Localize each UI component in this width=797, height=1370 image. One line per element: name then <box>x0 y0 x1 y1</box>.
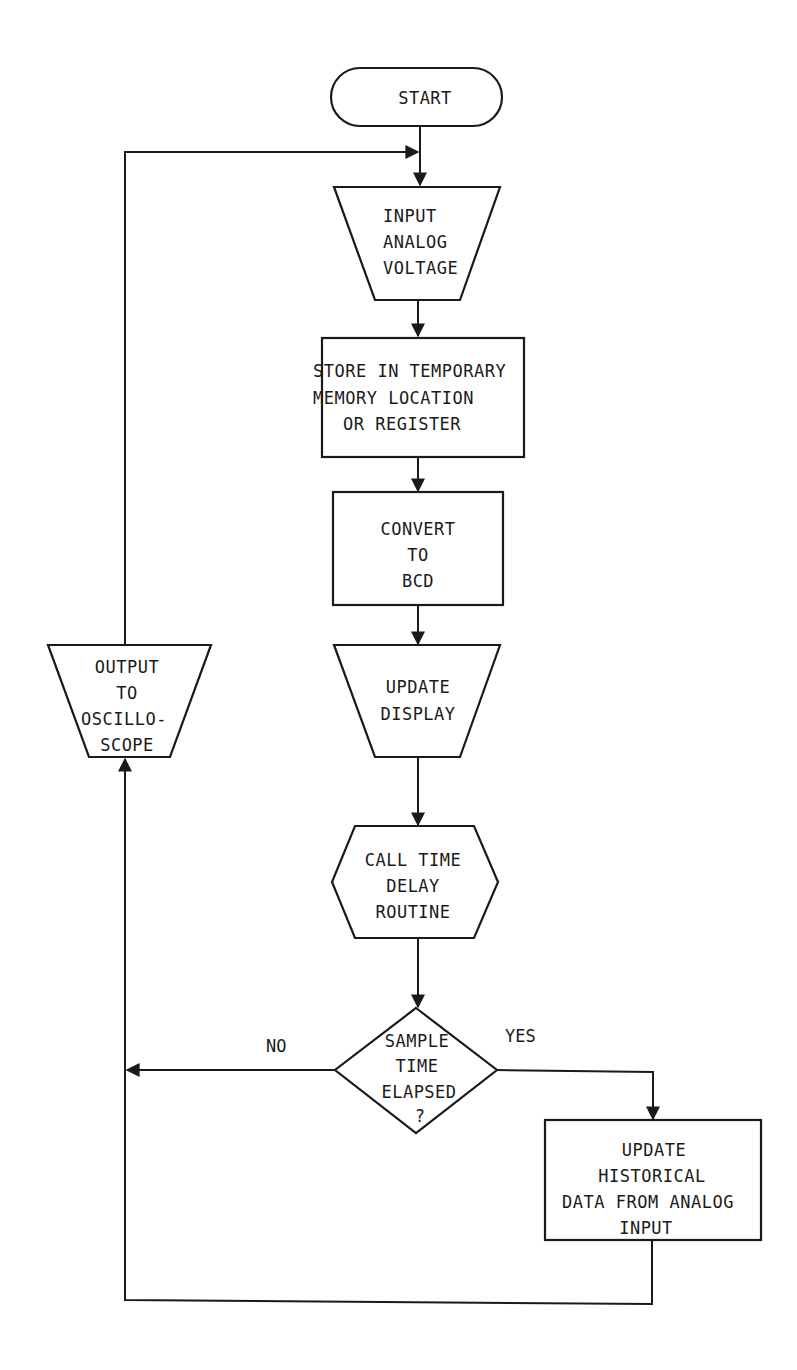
node-store-line-1: STORE IN TEMPORARY <box>313 361 506 381</box>
node-delay: CALL TIME DELAY ROUTINE <box>332 826 498 938</box>
node-delay-line-3: ROUTINE <box>375 902 450 922</box>
node-delay-line-2: DELAY <box>386 876 440 896</box>
node-delay-line-1: CALL TIME <box>365 850 462 870</box>
node-display-line-1: UPDATE <box>386 677 450 697</box>
node-output-line-3: OSCILLO- <box>81 709 167 729</box>
node-historical-line-1: UPDATE <box>622 1140 686 1160</box>
branch-label-no: NO <box>266 1036 286 1056</box>
node-convert-line-3: BCD <box>402 571 434 591</box>
node-historical-line-2: HISTORICAL <box>598 1166 705 1186</box>
edge-decision-yes <box>497 1070 653 1119</box>
node-output-line-1: OUTPUT <box>95 657 159 677</box>
node-convert: CONVERT TO BCD <box>333 492 503 605</box>
node-decision-line-1: SAMPLE <box>385 1031 449 1051</box>
branch-label-yes: YES <box>505 1026 536 1046</box>
node-display: UPDATE DISPLAY <box>334 645 500 757</box>
node-store-line-2: MEMORY LOCATION <box>313 388 474 408</box>
node-output-line-2: TO <box>116 683 137 703</box>
node-input-line-1: INPUT <box>383 206 437 226</box>
node-store-line-3: OR REGISTER <box>343 414 461 434</box>
node-decision-line-4: ? <box>415 1106 426 1126</box>
node-historical-line-4: INPUT <box>619 1218 673 1238</box>
node-output: OUTPUT TO OSCILLO- SCOPE <box>48 645 211 757</box>
node-convert-line-1: CONVERT <box>380 519 455 539</box>
node-convert-line-2: TO <box>407 545 428 565</box>
node-start-label: START <box>398 88 452 108</box>
node-historical: UPDATE HISTORICAL DATA FROM ANALOG INPUT <box>545 1120 761 1240</box>
node-display-line-2: DISPLAY <box>380 704 455 724</box>
node-start: START <box>331 68 502 126</box>
node-decision-line-2: TIME <box>396 1056 439 1076</box>
node-historical-line-3: DATA FROM ANALOG <box>562 1192 734 1212</box>
node-input-line-2: ANALOG <box>383 232 447 252</box>
node-decision-line-3: ELAPSED <box>381 1082 456 1102</box>
node-decision: SAMPLE TIME ELAPSED ? <box>335 1008 497 1133</box>
node-output-line-4: SCOPE <box>100 735 154 755</box>
node-input: INPUT ANALOG VOLTAGE <box>334 187 500 300</box>
node-input-line-3: VOLTAGE <box>383 258 458 278</box>
node-store: STORE IN TEMPORARY MEMORY LOCATION OR RE… <box>313 338 524 457</box>
flowchart: START INPUT ANALOG VOLTAGE STORE IN TEMP… <box>0 0 797 1370</box>
